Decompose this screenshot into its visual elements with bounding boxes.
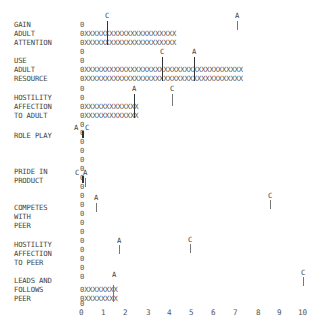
marker-c-line — [162, 57, 163, 81]
label-leads-and: LEADS AND — [14, 276, 52, 285]
x-tick-8: 8 — [256, 308, 261, 317]
zero: 0 — [80, 146, 84, 155]
bar-gain-attention: 0XXXXXXXXXXXXXXXXXXXXXX — [80, 38, 176, 47]
label-with: WITH — [14, 212, 31, 221]
x-tick-2: 2 — [123, 308, 128, 317]
marker-c-line — [190, 244, 191, 253]
marker-a: A — [235, 11, 239, 20]
label-adult: ADULT — [14, 29, 35, 38]
x-tick-3: 3 — [146, 308, 151, 317]
zero: 0 — [80, 84, 84, 93]
x-tick-4: 4 — [167, 308, 172, 317]
label-follows: FOLLOWS — [14, 285, 43, 294]
label-role-play: ROLE PLAY — [14, 131, 52, 140]
marker-a: A — [192, 47, 196, 56]
bar-leads-follows: 0XXXXXXXX — [80, 294, 118, 303]
marker-c-line — [107, 21, 108, 45]
marker-c: C — [301, 268, 305, 277]
zero: 0 — [80, 245, 84, 254]
x-tick-0: 0 — [79, 308, 84, 317]
x-tick-10: 10 — [298, 308, 307, 317]
bar-hostility-adult: 0XXXXXXXXXXXXX — [80, 111, 138, 120]
label-hostility-2: HOSTILITY — [14, 240, 52, 249]
zero: 0 — [80, 236, 84, 245]
label-hostility: HOSTILITY — [14, 93, 52, 102]
marker-c: C — [160, 47, 164, 56]
label-affection: AFFECTION — [14, 102, 52, 111]
label-attention: ATTENTION — [14, 38, 52, 47]
marker-a-line — [113, 285, 114, 302]
zero: 0 — [80, 218, 84, 227]
zero: 0 — [80, 137, 84, 146]
label-competes: COMPETES — [14, 203, 47, 212]
label-resource: RESOURCE — [14, 74, 47, 83]
zero: 0 — [80, 272, 84, 281]
marker-a: A — [94, 193, 98, 202]
bar-gain-attention: 0XXXXXXXXXXXXXXXXXXXXXX — [80, 29, 176, 38]
zero: 0 — [80, 263, 84, 272]
marker-c: C — [105, 11, 109, 20]
marker-c: C — [85, 123, 89, 132]
zero: 0 — [80, 254, 84, 263]
zero: 0 — [80, 200, 84, 209]
label-to-adult: TO ADULT — [14, 111, 47, 120]
label-pride-in: PRIDE IN — [14, 167, 47, 176]
marker-c-line — [270, 200, 271, 209]
marker-c: C — [75, 168, 79, 177]
marker-a-line — [237, 21, 238, 30]
marker-a-line — [194, 57, 195, 81]
x-tick-7: 7 — [233, 308, 238, 317]
marker-c-line — [303, 277, 304, 286]
bar-hostility-adult: 0XXXXXXXXXXXXX — [80, 102, 138, 111]
bar-leads-follows: 0XXXXXXXX — [80, 285, 118, 294]
marker-a-line — [96, 203, 97, 212]
x-tick-6: 6 — [211, 308, 216, 317]
label-use: USE — [14, 56, 27, 65]
zero: 0 — [80, 155, 84, 164]
label-peer-2: PEER — [14, 294, 31, 303]
marker-line — [82, 176, 84, 183]
marker-a-line — [134, 94, 135, 118]
zero: 0 — [80, 56, 84, 65]
label-to-peer: TO PEER — [14, 258, 43, 267]
label-affection-2: AFFECTION — [14, 249, 52, 258]
marker-line — [82, 131, 84, 138]
marker-c: C — [268, 191, 272, 200]
zero: 0 — [80, 20, 84, 29]
marker-a: A — [117, 236, 121, 245]
x-tick-1: 1 — [101, 308, 106, 317]
label-peer: PEER — [14, 221, 31, 230]
label-adult-2: ADULT — [14, 65, 35, 74]
x-tick-5: 5 — [189, 308, 194, 317]
zero: 0 — [80, 191, 84, 200]
marker-a-line — [85, 178, 86, 187]
zero: 0 — [80, 47, 84, 56]
label-product: PRODUCT — [14, 176, 43, 185]
marker-c: C — [188, 235, 192, 244]
marker-a-line — [119, 245, 120, 254]
marker-a: A — [112, 270, 116, 279]
marker-a: A — [74, 123, 78, 132]
marker-a: A — [132, 84, 136, 93]
marker-c: C — [170, 84, 174, 93]
zero: 0 — [80, 182, 84, 191]
label-gain: GAIN — [14, 20, 31, 29]
marker-c-line — [172, 94, 173, 106]
zero: 0 — [80, 209, 84, 218]
zero: 0 — [80, 93, 84, 102]
x-tick-9: 9 — [277, 308, 282, 317]
zero: 0 — [80, 227, 84, 236]
